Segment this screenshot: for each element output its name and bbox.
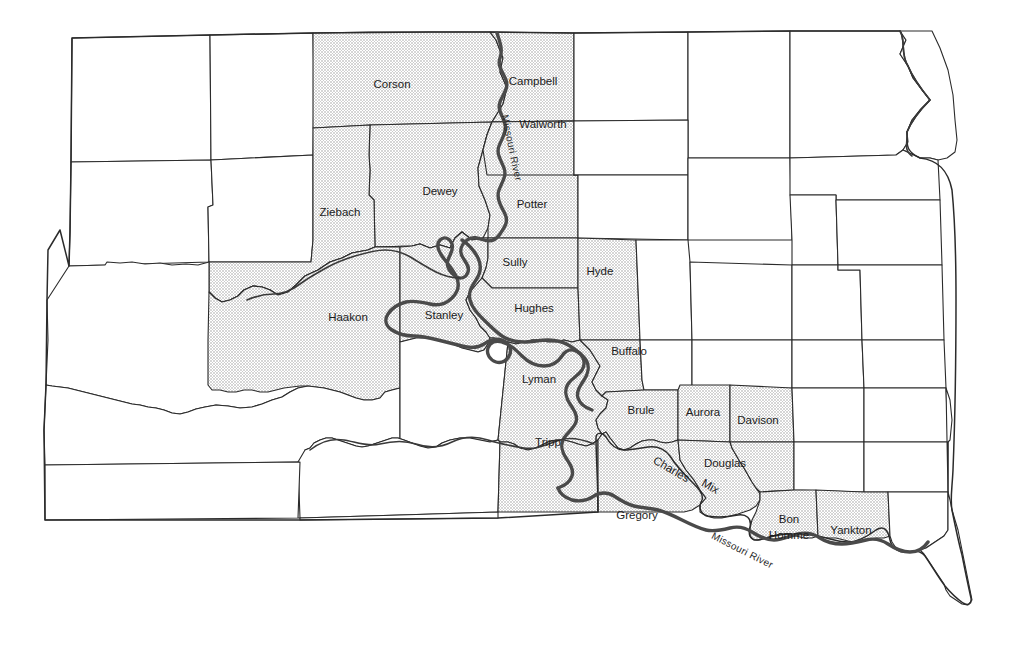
county-label-aurora: Aurora [686,406,721,418]
county-lyman[interactable] [498,340,608,450]
county-label-stanley: Stanley [425,309,464,321]
county-hanson[interactable] [792,388,864,442]
county-label-davison: Davison [737,414,779,426]
county-beadle[interactable] [690,262,792,340]
county-hutchinson[interactable] [794,442,864,492]
county-label-campbell: Campbell [509,75,558,87]
county-label-bon-homme-line2: Homme [769,529,809,541]
south-dakota-county-map: Corson Campbell Walworth Dewey Potter Zi… [0,0,1015,648]
county-sully[interactable] [482,238,578,288]
county-mccook[interactable] [864,388,948,442]
county-label-yankton: Yankton [830,524,871,536]
county-miner[interactable] [792,340,864,388]
county-faulk[interactable] [574,175,688,240]
county-brown[interactable] [688,31,790,158]
county-label-dewey: Dewey [422,185,457,197]
county-label-bon-homme-line1: Bon [779,513,799,525]
county-label-sully: Sully [503,256,528,268]
county-label-gregory: Gregory [616,509,658,521]
county-label-douglas: Douglas [704,457,746,469]
county-butte[interactable] [69,160,213,266]
county-spink[interactable] [688,158,792,240]
county-label-buffalo: Buffalo [611,345,647,357]
county-clark[interactable] [790,195,838,265]
county-kingsbury[interactable] [792,265,862,340]
county-label-haakon: Haakon [328,311,368,323]
county-jerauld[interactable] [640,340,692,390]
county-mellette[interactable] [298,438,500,518]
county-edmunds[interactable] [574,120,688,175]
county-codington[interactable] [836,200,942,265]
county-label-hughes: Hughes [514,302,554,314]
county-label-brule: Brule [628,404,655,416]
county-label-tripp: Tripp [535,436,561,448]
county-sanborn[interactable] [692,340,792,390]
county-hyde[interactable] [578,238,640,340]
county-label-hyde: Hyde [587,265,614,277]
county-lake[interactable] [862,340,946,388]
county-shannon[interactable] [45,462,300,520]
map-container: Corson Campbell Walworth Dewey Potter Zi… [0,0,1015,648]
county-meade[interactable] [208,155,313,262]
county-label-corson: Corson [373,78,410,90]
county-label-ziebach: Ziebach [320,206,361,218]
county-label-lyman: Lyman [522,373,556,385]
county-mcpherson[interactable] [574,32,688,121]
county-harding[interactable] [71,35,211,162]
county-perkins[interactable] [210,33,314,160]
county-label-potter: Potter [517,198,548,210]
county-label-walworth: Walworth [519,118,567,130]
county-turner[interactable] [864,442,948,492]
county-hand[interactable] [636,240,692,340]
